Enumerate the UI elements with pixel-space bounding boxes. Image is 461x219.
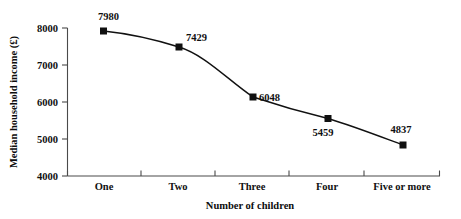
y-tick-label-4000: 4000 xyxy=(37,171,58,182)
y-tick-label-6000: 6000 xyxy=(37,97,58,108)
data-label-one: 7980 xyxy=(98,11,119,22)
x-tick-label-three: Three xyxy=(239,181,266,192)
x-tick-label-four: Four xyxy=(316,181,339,192)
data-label-two: 7429 xyxy=(186,32,207,43)
x-tick-label-five-or-more: Five or more xyxy=(373,181,431,192)
data-point-marker-three xyxy=(250,94,257,101)
line-chart-canvas: 8000 7000 6000 5000 4000 One Two Three F… xyxy=(0,0,461,219)
data-label-three: 6048 xyxy=(259,92,280,103)
data-point-marker-one xyxy=(100,28,107,35)
data-point-marker-five-or-more xyxy=(400,142,407,149)
data-point-marker-two xyxy=(176,44,183,51)
y-tick-label-8000: 8000 xyxy=(37,23,58,34)
y-tick-label-7000: 7000 xyxy=(37,60,58,71)
data-label-four: 5459 xyxy=(313,127,334,138)
data-point-marker-four xyxy=(325,115,332,122)
x-axis-title: Number of children xyxy=(206,200,294,211)
chart-figure: 8000 7000 6000 5000 4000 One Two Three F… xyxy=(0,0,461,219)
y-tick-label-5000: 5000 xyxy=(37,134,58,145)
data-label-five-or-more: 4837 xyxy=(391,124,412,135)
x-tick-label-two: Two xyxy=(168,181,187,192)
x-tick-label-one: One xyxy=(95,181,114,192)
y-axis-title: Median household income (£) xyxy=(8,35,20,168)
